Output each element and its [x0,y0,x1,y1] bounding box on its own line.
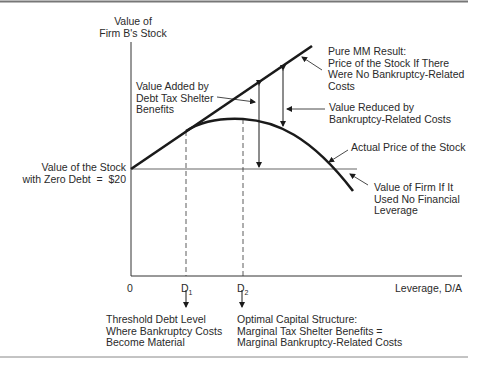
threshold-label: Threshold Debt Level Where Bankruptcy Co… [106,314,222,349]
d1-subscript: 1 [189,289,193,296]
y-axis-label: Value of Firm B's Stock [97,16,169,39]
optimal-structure-label: Optimal Capital Structure: Marginal Tax … [237,314,402,349]
zero-debt-label: Value of the Stock with Zero Debt = $20 [12,162,126,185]
x-axis-label: Leverage, D/A [395,283,462,295]
pure-mm-leader [302,57,322,70]
no-leverage-leader [350,174,368,185]
value-reduced-label: Value Reduced by Bankruptcy-Related Cost… [329,102,451,125]
actual-price-curve [186,119,353,191]
value-added-label: Value Added by Debt Tax Shelter Benefits [136,81,213,116]
actual-price-label: Actual Price of the Stock [351,142,465,154]
d2-label: D2 [237,283,249,299]
d2-subscript: 2 [245,289,249,296]
d1-letter: D [181,282,189,294]
origin-label: 0 [127,283,133,295]
d1-label: D1 [181,283,193,299]
actual-price-leader [329,150,348,162]
pure-mm-label: Pure MM Result: Price of the Stock If Th… [328,46,464,92]
no-leverage-label: Value of Firm If It Used No Financial Le… [374,182,460,217]
d2-letter: D [237,282,245,294]
